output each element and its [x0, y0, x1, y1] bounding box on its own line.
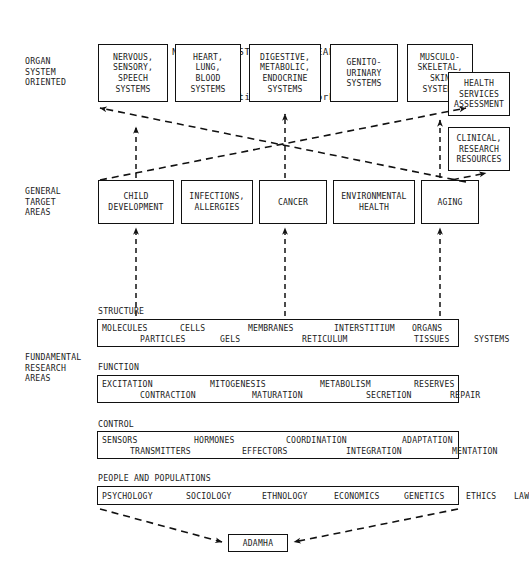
- term-molecules: MOLECULES: [102, 323, 180, 333]
- people-row-1: PSYCHOLOGY SOCIOLOGY ETHNOLOGY ECONOMICS…: [102, 491, 455, 501]
- adamha-box[interactable]: ADAMHA: [228, 534, 288, 552]
- arrow-right-to-adamha: [294, 509, 458, 542]
- term-gels: GELS: [220, 334, 302, 344]
- function-row-1: EXCITATION MITOGENESIS METABOLISM RESERV…: [102, 379, 455, 389]
- arrow-aging-to-side-boxes: [452, 173, 486, 180]
- term-interstitium: INTERSTITIUM: [334, 323, 412, 333]
- term-secretion: SECRETION: [366, 390, 450, 400]
- term-organs: ORGANS: [412, 323, 442, 333]
- term-sensors: SENSORS: [102, 435, 194, 445]
- organ-box-heart-lung-blood[interactable]: HEART, LUNG, BLOOD SYSTEMS: [175, 44, 241, 102]
- tier-label-organ-system-oriented: ORGAN SYSTEM ORIENTED: [25, 56, 66, 88]
- block-people-and-populations[interactable]: PSYCHOLOGY SOCIOLOGY ETHNOLOGY ECONOMICS…: [97, 486, 459, 505]
- term-mentation: MENTATION: [452, 446, 498, 456]
- target-box-child-development[interactable]: CHILD DEVELOPMENT: [98, 180, 174, 224]
- control-row-2: TRANSMITTERS EFFECTORS INTEGRATION MENTA…: [130, 446, 455, 456]
- organ-box-nervous-sensory-speech[interactable]: NERVOUS, SENSORY, SPEECH SYSTEMS: [98, 44, 168, 102]
- term-contraction: CONTRACTION: [140, 390, 252, 400]
- control-row-1: SENSORS HORMONES COORDINATION ADAPTATION: [102, 435, 455, 445]
- block-function[interactable]: EXCITATION MITOGENESIS METABOLISM RESERV…: [97, 375, 459, 403]
- term-transmitters: TRANSMITTERS: [130, 446, 242, 456]
- term-membranes: MEMBRANES: [248, 323, 334, 333]
- term-hormones: HORMONES: [194, 435, 286, 445]
- term-psychology: PSYCHOLOGY: [102, 491, 186, 501]
- term-integration: INTEGRATION: [346, 446, 452, 456]
- term-adaptation: ADAPTATION: [402, 435, 453, 445]
- organ-box-genito-urinary[interactable]: GENITO- URINARY SYSTEMS: [330, 44, 398, 102]
- side-box-clinical-research-resources[interactable]: CLINICAL, RESEARCH RESOURCES: [448, 127, 510, 171]
- side-box-health-services-assessment[interactable]: HEALTH SERVICES ASSESSMENT: [448, 72, 510, 116]
- term-law: LAW: [514, 491, 529, 501]
- tier-label-general-target-areas: GENERAL TARGET AREAS: [25, 186, 61, 218]
- tier-label-fundamental-research-areas: FUNDAMENTAL RESEARCH AREAS: [25, 352, 81, 384]
- term-excitation: EXCITATION: [102, 379, 210, 389]
- term-genetics: GENETICS: [404, 491, 466, 501]
- target-box-cancer[interactable]: CANCER: [259, 180, 327, 224]
- structure-row-1: MOLECULES CELLS MEMBRANES INTERSTITIUM O…: [102, 323, 455, 333]
- term-sociology: SOCIOLOGY: [186, 491, 262, 501]
- term-reserves: RESERVES: [414, 379, 455, 389]
- term-particles: PARTICLES: [140, 334, 220, 344]
- target-box-infections-allergies[interactable]: INFECTIONS, ALLERGIES: [181, 180, 253, 224]
- term-systems: SYSTEMS: [474, 334, 510, 344]
- term-ethnology: ETHNOLOGY: [262, 491, 334, 501]
- block-control[interactable]: SENSORS HORMONES COORDINATION ADAPTATION…: [97, 431, 459, 459]
- target-box-aging[interactable]: AGING: [421, 180, 479, 224]
- term-coordination: COORDINATION: [286, 435, 402, 445]
- block-heading-function: FUNCTION: [98, 362, 139, 372]
- term-cells: CELLS: [180, 323, 248, 333]
- block-structure[interactable]: MOLECULES CELLS MEMBRANES INTERSTITIUM O…: [97, 319, 459, 347]
- term-effectors: EFFECTORS: [242, 446, 346, 456]
- term-economics: ECONOMICS: [334, 491, 404, 501]
- term-mitogenesis: MITOGENESIS: [210, 379, 320, 389]
- term-metabolism: METABOLISM: [320, 379, 414, 389]
- term-reticulum: RETICULUM: [302, 334, 414, 344]
- term-tissues: TISSUES: [414, 334, 474, 344]
- term-maturation: MATURATION: [252, 390, 366, 400]
- target-box-environmental-health[interactable]: ENVIRONMENTAL HEALTH: [333, 180, 415, 224]
- block-heading-control: CONTROL: [98, 419, 134, 429]
- function-row-2: CONTRACTION MATURATION SECRETION REPAIR: [140, 390, 455, 400]
- block-heading-structure: STRUCTURE: [98, 306, 144, 316]
- arrow-left-to-adamha: [100, 509, 222, 542]
- structure-row-2: PARTICLES GELS RETICULUM TISSUES SYSTEMS: [140, 334, 455, 344]
- term-ethics: ETHICS: [466, 491, 514, 501]
- block-heading-people-and-populations: PEOPLE AND POPULATIONS: [98, 473, 211, 483]
- organ-box-digestive-metabolic-endocrine[interactable]: DIGESTIVE, METABOLIC, ENDOCRINE SYSTEMS: [249, 44, 321, 102]
- term-repair: REPAIR: [450, 390, 480, 400]
